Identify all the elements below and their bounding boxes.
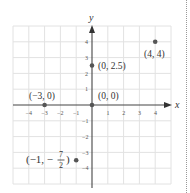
label-0-2.5: (0, 2.5) <box>98 61 126 72</box>
svg-text:1: 1 <box>85 86 88 92</box>
svg-text:4: 4 <box>85 39 88 45</box>
svg-text:−2: −2 <box>57 110 63 116</box>
svg-text:−3: −3 <box>82 150 88 156</box>
point-0-0 <box>90 103 95 108</box>
svg-text:(−1, −: (−1, − <box>26 153 53 166</box>
point-neg3-0 <box>42 103 47 108</box>
label-0-0: (0, 0) <box>98 91 119 102</box>
coordinate-plane: x y −4 −3 −2 −1 1 2 3 4 4 3 2 1 −1 −2 −3… <box>0 0 190 193</box>
svg-text:2: 2 <box>122 110 125 116</box>
svg-text:4: 4 <box>154 110 157 116</box>
svg-text:7: 7 <box>59 150 63 159</box>
point-0-2.5 <box>90 63 95 68</box>
label-neg3-0: (−3, 0) <box>29 91 55 102</box>
x-tick-labels: −4 −3 −2 −1 1 2 3 4 <box>26 110 157 116</box>
svg-text:−1: −1 <box>73 110 79 116</box>
point-4-4 <box>153 40 158 45</box>
svg-text:−3: −3 <box>41 110 47 116</box>
svg-text:3: 3 <box>138 110 141 116</box>
svg-text:2: 2 <box>59 161 63 170</box>
label-neg1-neg7over2: (−1, − 7 2 ) <box>26 150 70 170</box>
svg-text:−4: −4 <box>26 110 32 116</box>
svg-text:2: 2 <box>85 71 88 77</box>
label-4-4: (4, 4) <box>144 49 165 60</box>
svg-text:1: 1 <box>107 110 110 116</box>
svg-text:−1: −1 <box>82 118 88 124</box>
svg-text:): ) <box>66 153 70 166</box>
svg-text:−2: −2 <box>82 134 88 140</box>
svg-text:−4: −4 <box>82 165 88 171</box>
page-divider <box>186 0 187 193</box>
x-axis-label: x <box>174 99 180 110</box>
point-neg1-neg3.5 <box>74 158 79 163</box>
y-axis-label: y <box>88 12 94 23</box>
svg-text:3: 3 <box>85 55 88 61</box>
